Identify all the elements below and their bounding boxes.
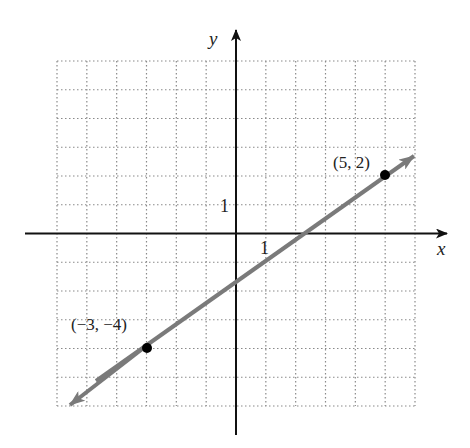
- point-b-label: (5, 2): [333, 153, 370, 172]
- y-axis-label: y: [207, 28, 218, 49]
- point-a-label: (−3, −4): [71, 315, 127, 334]
- x-tick-label-1: 1: [260, 238, 269, 258]
- graph-line-tail: [70, 343, 150, 405]
- x-axis-label: x: [436, 238, 446, 259]
- coordinate-plane: x y 1 1 (−3, −4) (5, 2): [0, 0, 470, 448]
- point-b-dot: [380, 170, 390, 180]
- point-a-dot: [142, 343, 152, 353]
- y-tick-label-1: 1: [220, 196, 229, 216]
